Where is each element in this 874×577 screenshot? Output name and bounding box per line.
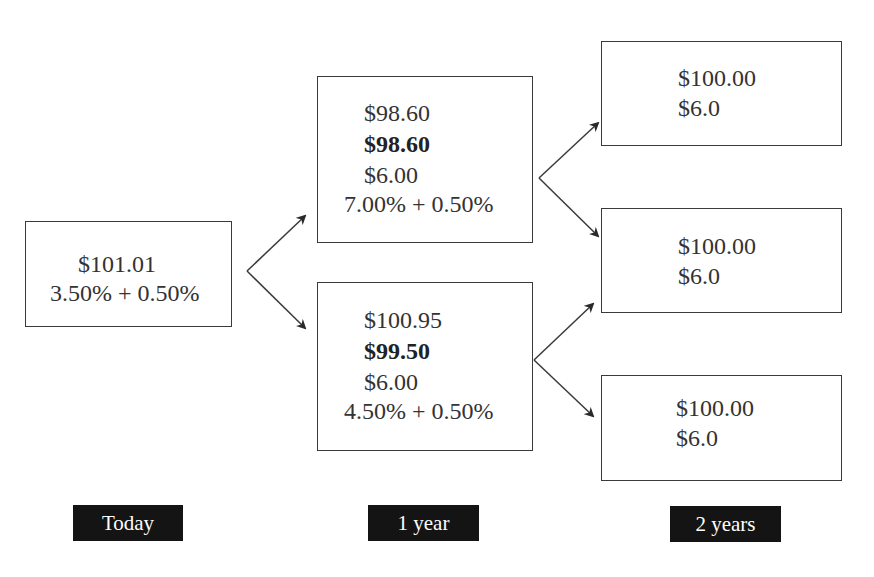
node-year2-lower-coupon: $6.0 [676, 423, 718, 453]
node-year1-down-price: $100.95 [364, 305, 442, 335]
time-label-year1: 1 year [368, 505, 479, 541]
node-today: $101.01 3.50% + 0.50% [25, 221, 232, 327]
arrow-down-to-ud [534, 304, 593, 360]
node-year2-middle-coupon: $6.0 [678, 261, 720, 291]
node-today-rate: 3.50% + 0.50% [50, 278, 200, 308]
arrow-up-to-uu [539, 123, 598, 178]
time-label-today: Today [73, 505, 183, 541]
node-year1-up-value: $98.60 [364, 129, 430, 159]
node-year1-down-rate: 4.50% + 0.50% [344, 396, 494, 426]
arrow-down-to-dd [534, 360, 593, 416]
node-year2-middle: $100.00 $6.0 [601, 208, 842, 313]
arrow-up-to-ud [539, 178, 598, 236]
node-year2-lower: $100.00 $6.0 [601, 375, 842, 481]
node-year2-lower-price: $100.00 [676, 393, 754, 423]
node-year2-upper-coupon: $6.0 [678, 93, 720, 123]
node-year2-middle-price: $100.00 [678, 231, 756, 261]
node-year1-up-price: $98.60 [364, 98, 430, 128]
node-year1-down-value: $99.50 [364, 336, 430, 366]
node-today-price: $101.01 [78, 249, 156, 279]
arrow-today-to-down [247, 271, 305, 328]
node-year1-up: $98.60 $98.60 $6.00 7.00% + 0.50% [317, 76, 533, 243]
node-year2-upper: $100.00 $6.0 [601, 41, 842, 146]
node-year1-up-coupon: $6.00 [364, 160, 418, 190]
node-year1-up-rate: 7.00% + 0.50% [344, 189, 494, 219]
node-year2-upper-price: $100.00 [678, 63, 756, 93]
arrow-today-to-up [247, 216, 305, 271]
node-year1-down: $100.95 $99.50 $6.00 4.50% + 0.50% [317, 282, 533, 451]
node-year1-down-coupon: $6.00 [364, 367, 418, 397]
time-label-year2: 2 years [670, 506, 781, 542]
